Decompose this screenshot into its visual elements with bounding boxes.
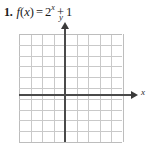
grid-line-horizontal [19,88,122,89]
worksheet-problem-figure: 1. f(x)=2x+1 y x [0,0,151,151]
x-axis-label: x [141,87,145,97]
grid-line-horizontal [19,131,122,132]
grid-line-horizontal [19,120,122,121]
grid-line-horizontal [19,110,122,111]
exponent: x [51,3,55,12]
problem-number: 1. [4,5,13,20]
grid-line-vertical [123,34,124,142]
y-axis [64,26,66,142]
function-expression: f(x)=2x+1 [17,4,73,20]
grid-line-horizontal [19,45,122,46]
y-axis-label: y [59,12,63,22]
grid-line-horizontal [19,77,122,78]
constant-term: 1 [66,5,72,19]
coordinate-grid: y x [19,34,122,142]
grid-line-horizontal [19,56,122,57]
y-axis-arrow-icon [61,22,69,29]
equals-sign: = [34,5,45,19]
grid-line-horizontal [19,142,122,143]
x-axis-arrow-icon [131,91,138,99]
x-axis [19,94,134,96]
grid-line-horizontal [19,34,122,35]
grid-line-horizontal [19,99,122,100]
grid-lines [19,34,122,142]
grid-line-horizontal [19,66,122,67]
